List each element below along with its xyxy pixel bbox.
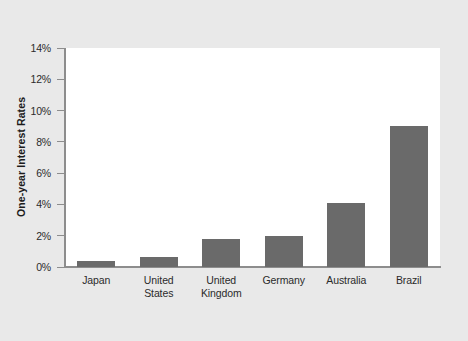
x-axis-category-label-line: Australia — [315, 274, 378, 287]
y-axis-tick — [57, 204, 65, 205]
x-axis-category-label-line: Kingdom — [190, 287, 253, 300]
x-axis-category-label-line: United — [190, 274, 253, 287]
y-axis-tick — [57, 235, 65, 236]
x-axis-category-label: UnitedStates — [128, 274, 191, 299]
x-axis-category-label: Germany — [253, 274, 316, 287]
x-axis-category-label: Brazil — [378, 274, 441, 287]
x-axis-category-label: UnitedKingdom — [190, 274, 253, 299]
x-axis-category-label-line: Brazil — [378, 274, 441, 287]
bar-series — [65, 48, 440, 267]
x-axis-category-label: Japan — [65, 274, 128, 287]
bar — [265, 236, 303, 267]
bar — [327, 203, 365, 267]
y-axis-tick — [57, 110, 65, 111]
bar — [390, 126, 428, 267]
x-axis-category-label-line: United — [128, 274, 191, 287]
x-axis-category-label-line: States — [128, 287, 191, 300]
y-axis-title: One-year Interest Rates — [12, 47, 30, 267]
x-axis-category-label: Australia — [315, 274, 378, 287]
x-axis-category-label-line: Germany — [253, 274, 316, 287]
bar — [140, 257, 178, 267]
y-axis-tick — [57, 141, 65, 142]
y-axis-tick — [57, 267, 65, 268]
y-axis-tick — [57, 79, 65, 80]
chart-figure: 0%2%4%6%8%10%12%14% One-year Interest Ra… — [0, 0, 468, 341]
y-axis-tick — [57, 48, 65, 49]
y-axis-tick — [57, 173, 65, 174]
x-axis-category-label-line: Japan — [65, 274, 128, 287]
bar — [77, 261, 115, 267]
bar — [202, 239, 240, 267]
